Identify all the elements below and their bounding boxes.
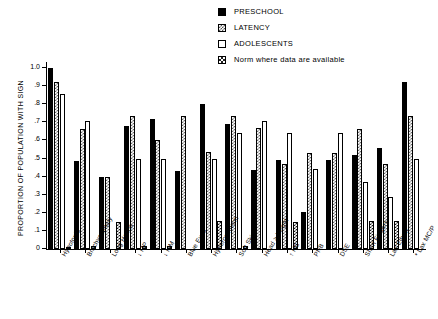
y-tick-label: .2 [34, 208, 40, 216]
bar [287, 133, 292, 249]
y-tick-label: .3 [34, 190, 40, 198]
y-tick: .7 [42, 121, 46, 122]
y-axis-title: PROPORTION OF POPULATION WITH SIGN [14, 58, 28, 258]
bar-group [47, 68, 72, 249]
bar-group [300, 68, 325, 249]
legend-label-preschool: PRESCHOOL [234, 8, 284, 16]
bar [313, 169, 318, 249]
bar [414, 159, 419, 250]
bar [282, 164, 287, 249]
y-tick: .2 [42, 212, 46, 213]
bar [206, 152, 211, 249]
y-tick: .3 [42, 194, 46, 195]
bar-group [350, 68, 375, 249]
bar [383, 164, 388, 249]
bar-chart-figure: PRESCHOOL LATENCY ADOLESCENTS Norm where… [0, 0, 438, 319]
bar-group [72, 68, 97, 249]
legend-swatch-adolescents [218, 40, 226, 48]
bar [357, 129, 362, 249]
legend-swatch-preschool [218, 8, 226, 16]
legend-entry-adolescents: ADOLESCENTS [218, 36, 434, 52]
y-tick: .1 [42, 230, 46, 231]
bar [175, 171, 180, 249]
bar [54, 82, 59, 249]
legend-swatch-latency [218, 24, 226, 32]
bar [105, 177, 110, 249]
bar [155, 140, 160, 249]
bar [332, 153, 337, 249]
y-tick: 0 [42, 248, 46, 249]
y-tick-label: .6 [34, 135, 40, 143]
legend-label-norm: Norm where data are available [234, 56, 345, 64]
bar [352, 155, 357, 249]
y-tick-label: .1 [34, 226, 40, 234]
x-axis-tick-labels: HypotoniaBrachycephalyLong Hands↓ MP↓ MM… [46, 254, 426, 319]
legend-label-adolescents: ADOLESCENTS [234, 40, 293, 48]
bar [48, 68, 53, 249]
bar [307, 153, 312, 249]
bar-group [401, 68, 426, 249]
bar [402, 82, 407, 249]
y-tick-label: .7 [34, 117, 40, 125]
bar [136, 159, 141, 250]
bar-group [148, 68, 173, 249]
legend-swatch-norm [218, 56, 226, 64]
y-tick: 1.0 [42, 67, 46, 68]
bar-group [199, 68, 224, 249]
y-tick-label: 1.0 [30, 63, 40, 71]
legend-entry-preschool: PRESCHOOL [218, 4, 434, 20]
y-tick: .5 [42, 158, 46, 159]
bar [326, 160, 331, 249]
y-tick-label: .9 [34, 81, 40, 89]
y-tick-label: .5 [34, 154, 40, 162]
bar [181, 116, 186, 249]
legend-entry-latency: LATENCY [218, 20, 434, 36]
y-tick-label: .8 [34, 99, 40, 107]
legend-label-latency: LATENCY [234, 24, 270, 32]
y-tick: .4 [42, 176, 46, 177]
bar-group [325, 68, 350, 249]
bar [388, 197, 393, 249]
y-tick-label: .4 [34, 172, 40, 180]
y-tick: .8 [42, 103, 46, 104]
bar [150, 119, 155, 249]
bar [237, 133, 242, 249]
bar [85, 121, 90, 250]
bar-group [173, 68, 198, 249]
bar [338, 133, 343, 249]
bar [301, 212, 306, 249]
bar [262, 121, 267, 250]
bar [363, 182, 368, 249]
y-tick-label: 0 [36, 244, 40, 252]
bar [161, 159, 166, 250]
y-tick: .6 [42, 139, 46, 140]
bar [256, 128, 261, 249]
legend-entry-norm: Norm where data are available [218, 52, 434, 68]
bar-group [123, 68, 148, 249]
y-tick: .9 [42, 85, 46, 86]
bar-group [249, 68, 274, 249]
chart-legend: PRESCHOOL LATENCY ADOLESCENTS Norm where… [218, 4, 434, 68]
bar [60, 94, 65, 249]
bar [212, 159, 217, 250]
